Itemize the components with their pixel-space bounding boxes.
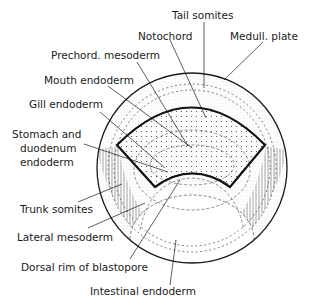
label-intestinal-endoderm: Intestinal endoderm — [90, 285, 196, 297]
label-stomach-line1: Stomach and — [12, 128, 81, 140]
label-stomach-line3: endoderm — [20, 156, 74, 168]
label-notochord: Notochord — [138, 30, 192, 42]
embryo-sphere — [97, 73, 287, 285]
label-tail-somites: Tail somites — [171, 9, 233, 21]
fate-map-diagram: Tail somites Notochord Medull. plate Pre… — [0, 0, 309, 305]
label-gill-endoderm: Gill endoderm — [29, 98, 103, 110]
label-trunk-somites: Trunk somites — [19, 203, 93, 215]
label-lateral-mesoderm: Lateral mesoderm — [17, 231, 113, 243]
label-medull-plate: Medull. plate — [230, 30, 298, 42]
label-stomach-line2: duodenum — [20, 142, 76, 154]
label-dorsal-rim: Dorsal rim of blastopore — [21, 261, 148, 273]
label-prechord-mesoderm: Prechord. mesoderm — [51, 49, 160, 61]
label-mouth-endoderm: Mouth endoderm — [44, 74, 134, 86]
